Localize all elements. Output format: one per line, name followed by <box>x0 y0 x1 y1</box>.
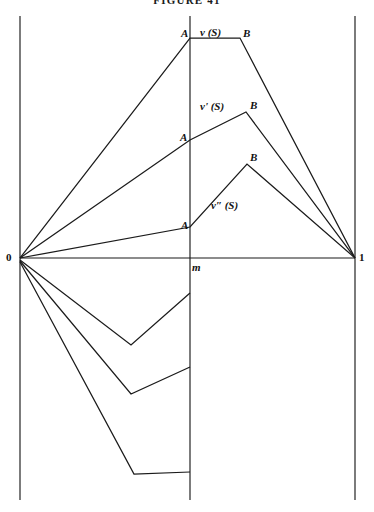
curve-v-prime-upper <box>20 112 355 258</box>
curve-v-double-prime-upper <box>20 164 355 258</box>
point-label-b1: B <box>243 28 250 39</box>
curve-annotation-v-double-prime: v″ (S) <box>211 200 238 211</box>
curve-annotation-v-prime: v' (S) <box>200 101 224 112</box>
point-label-a2: A <box>180 132 187 143</box>
point-label-a1: A <box>181 28 188 39</box>
point-label-a3: A <box>181 220 188 231</box>
axis-label-right: 1 <box>359 252 365 263</box>
curve-v-lower <box>20 260 190 345</box>
curve-annotation-v: v (S) <box>200 27 221 38</box>
point-label-b2: B <box>250 100 257 111</box>
point-label-b3: B <box>250 152 257 163</box>
figure-container: FIGURE 41 0 m 1 A B A B A B v (S) <box>0 0 374 512</box>
axis-label-midline: m <box>192 262 201 273</box>
figure-plot-canvas <box>0 0 374 512</box>
axis-label-origin: 0 <box>6 252 12 263</box>
curve-v-prime-lower <box>20 261 190 394</box>
curve-v-double-prime-lower <box>20 262 190 474</box>
